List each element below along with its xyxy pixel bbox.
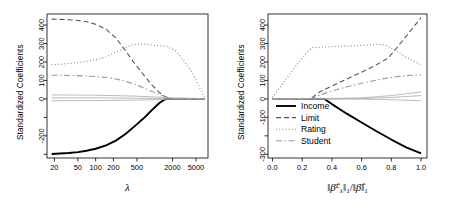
- x-tick-label: 100: [89, 163, 101, 172]
- legend-label-student: Student: [301, 136, 331, 146]
- y-tick-label: 100: [37, 74, 46, 86]
- legend-label-rating: Rating: [301, 124, 326, 134]
- x-axis-label-left: λ: [47, 181, 208, 193]
- lasso-coefficient-figure: Standardized Coefficients 20501002005002…: [0, 0, 457, 204]
- y-tick-label: 400: [258, 19, 267, 31]
- y-tick-label: 400: [37, 19, 46, 31]
- chart-panel-left: Standardized Coefficients 20501002005002…: [0, 0, 228, 204]
- norm-order-2: 1: [364, 187, 368, 195]
- plot-area-right: 0.00.20.40.60.81.0-300-1000100200300400I…: [229, 0, 457, 204]
- x-tick-label: 50: [74, 163, 82, 172]
- x-tick-label: 20: [50, 163, 58, 172]
- legend: IncomeLimitRatingStudent: [276, 101, 331, 146]
- y-tick-label: -300: [258, 147, 267, 162]
- y-tick-label: 300: [258, 37, 267, 49]
- x-tick-label: 5000: [188, 163, 204, 172]
- x-axis-label-right: ‖β̂Lλ‖1/‖β̂‖1: [268, 181, 427, 195]
- series-line-rating: [52, 44, 205, 97]
- x-tick-label: 2000: [164, 163, 180, 172]
- x-tick-label: 1.0: [416, 163, 426, 172]
- x-tick-label: 0.8: [386, 163, 396, 172]
- plot-area-left: 205010020050020005000-2000100200300400: [0, 0, 228, 204]
- series-line-rating: [272, 44, 421, 97]
- series-line-limit: [52, 19, 205, 99]
- legend-label-limit: Limit: [301, 113, 320, 123]
- series-line-student: [272, 75, 421, 99]
- y-tick-label: 200: [258, 56, 267, 68]
- chart-panel-right: Standardized Coefficients 0.00.20.40.60.…: [229, 0, 457, 204]
- x-tick-label: 200: [107, 163, 119, 172]
- y-tick-label: 300: [37, 37, 46, 49]
- x-tick-label: 0.2: [297, 163, 307, 172]
- y-tick-label: -100: [258, 110, 267, 125]
- y-tick-label: 0: [258, 97, 267, 101]
- x-tick-label: 0.4: [327, 163, 337, 172]
- x-tick-label: 0.6: [356, 163, 366, 172]
- legend-label-income: Income: [301, 101, 329, 111]
- series-line-income: [52, 99, 205, 154]
- y-tick-label: 0: [37, 97, 46, 101]
- series-line-income: [272, 99, 421, 153]
- series-line-other-1: [272, 92, 421, 99]
- x-tick-label: 0.0: [267, 163, 277, 172]
- y-tick-label: 100: [258, 74, 267, 86]
- x-tick-label: 500: [131, 163, 143, 172]
- y-tick-label: -200: [37, 128, 46, 143]
- y-tick-label: 200: [37, 56, 46, 68]
